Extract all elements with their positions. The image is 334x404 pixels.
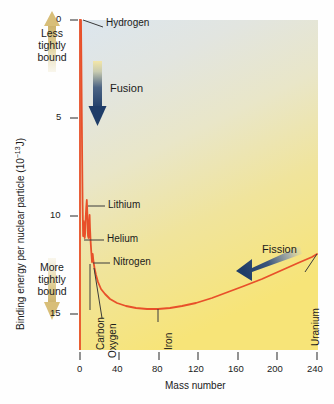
less-tightly-bound-label: Less tightly bound <box>24 28 80 63</box>
x-tick-label-200: 200 <box>267 364 283 375</box>
more-tightly-bound-line-2: tightly <box>24 274 80 286</box>
x-tick-label-120: 120 <box>188 364 204 375</box>
annotation-hydrogen: Hydrogen <box>106 17 149 28</box>
y-axis-title-tail: J) <box>15 138 26 146</box>
x-tick-label-40: 40 <box>112 364 123 375</box>
x-axis-title: Mass number <box>165 380 226 391</box>
x-tick-label-0: 0 <box>77 364 82 375</box>
y-tick-label-15: 15 <box>50 308 61 319</box>
more-tightly-bound-line-3: bound <box>24 286 80 298</box>
annotation-oxygen: Oxygen <box>107 324 118 358</box>
x-tick-label-80: 80 <box>152 364 163 375</box>
annotation-uranium: Uranium <box>310 308 321 346</box>
annotation-helium: Helium <box>107 233 138 244</box>
annotation-nitrogen: Nitrogen <box>113 256 151 267</box>
x-tick-label-160: 160 <box>228 364 244 375</box>
x-tick-label-240: 240 <box>307 364 323 375</box>
less-tightly-bound-line-2: tightly <box>24 40 80 52</box>
less-tightly-bound-line-3: bound <box>24 52 80 64</box>
annotation-iron: Iron <box>163 333 174 350</box>
y-tick-label-0: 0 <box>56 14 61 25</box>
y-axis-title-exponent: −13 <box>14 146 21 158</box>
annotation-lithium: Lithium <box>108 199 140 210</box>
plot-area-background <box>79 20 318 350</box>
y-axis-title: Binding energy per nuclear particle (10−… <box>14 138 27 330</box>
y-tick-label-10: 10 <box>50 210 61 221</box>
fusion-label: Fusion <box>110 82 143 94</box>
more-tightly-bound-line-1: More <box>24 262 80 274</box>
annotation-carbon: Carbon <box>95 317 106 350</box>
fission-label: Fission <box>262 243 297 255</box>
y-axis-title-main: Binding energy per nuclear particle (10 <box>15 158 26 330</box>
binding-energy-figure: 0 5 10 15 0 40 80 120 160 200 240 Mass n… <box>0 0 334 404</box>
y-tick-label-5: 5 <box>56 112 61 123</box>
more-tightly-bound-label: More tightly bound <box>24 262 80 297</box>
less-tightly-bound-line-1: Less <box>24 28 80 40</box>
